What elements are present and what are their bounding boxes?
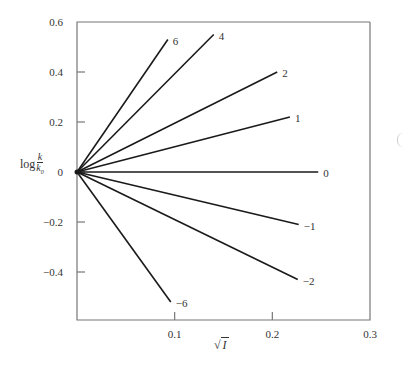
series-line bbox=[77, 172, 298, 280]
y-tick-label: 0 bbox=[58, 166, 64, 178]
radical-sign: √ bbox=[214, 338, 221, 352]
origin-point bbox=[75, 170, 80, 175]
scan-artifact bbox=[397, 133, 404, 147]
y-tick-label: 0.4 bbox=[49, 66, 63, 78]
y-axis-label-denominator: k0 bbox=[36, 163, 43, 177]
y-axis-label-log: log bbox=[20, 157, 35, 172]
series-line bbox=[77, 72, 277, 172]
series-label: −6 bbox=[176, 297, 188, 309]
x-tick-label: 0.3 bbox=[363, 328, 377, 340]
series-line bbox=[77, 35, 214, 173]
data-series: 64210−1−2−6 bbox=[75, 30, 330, 310]
den-subscript: 0 bbox=[41, 169, 44, 175]
x-tick-label: 0.1 bbox=[168, 328, 182, 340]
y-axis-label: log k k0 bbox=[20, 152, 44, 177]
y-tick-label: 0.6 bbox=[49, 16, 63, 28]
chart-canvas: 0.60.40.20−0.2−0.40.10.20.3 64210−1−2−6 bbox=[0, 0, 408, 370]
series-label: 0 bbox=[323, 167, 329, 179]
series-label: 6 bbox=[173, 35, 179, 47]
series-label: 4 bbox=[219, 30, 225, 42]
y-tick-label: −0.2 bbox=[43, 216, 63, 228]
series-label: 1 bbox=[295, 112, 301, 124]
x-axis-label: √I bbox=[214, 338, 229, 353]
series-line bbox=[77, 172, 299, 225]
y-axis-label-fraction: k k0 bbox=[36, 152, 43, 177]
series-label: −2 bbox=[303, 275, 315, 287]
x-axis-variable: I bbox=[221, 337, 229, 352]
series-label: 2 bbox=[282, 67, 288, 79]
y-tick-label: −0.4 bbox=[43, 266, 63, 278]
x-tick-label: 0.2 bbox=[265, 328, 279, 340]
y-tick-label: 0.2 bbox=[49, 116, 63, 128]
series-label: −1 bbox=[304, 220, 316, 232]
